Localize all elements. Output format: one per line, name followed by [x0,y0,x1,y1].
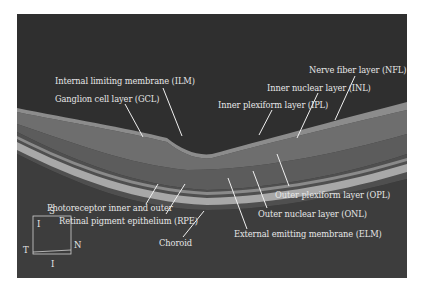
label-onl: Outer nuclear layer (ONL) [258,210,367,218]
label-inl: Inner nuclear layer (INL) [267,84,371,92]
label-gcl: Ganglion cell layer (GCL) [55,95,159,103]
label-ipl: Inner plexiform layer (IPL) [218,101,328,109]
label-choroid: Choroid [159,239,192,247]
label-ilm: Internal limiting membrane (ILM) [55,77,195,85]
label-elm: External emitting membrane (ELM) [234,230,382,238]
orientation-temporal: T [23,246,29,255]
label-opl: Outer plexiform layer (OPL) [275,191,390,199]
orientation-nasal: N [74,241,81,250]
label-rpe: Retinal pigment epithelium (RPE) [59,217,198,225]
orientation-inferior-top: I [37,220,40,229]
label-nfl: Nerve fiber layer (NFL) [309,66,406,74]
oct-retina-figure: Internal limiting membrane (ILM) Ganglio… [17,14,407,278]
label-photoreceptor: Photoreceptor inner and outer [47,204,173,212]
orientation-superior: S [49,207,55,216]
orientation-inferior: I [51,260,54,269]
